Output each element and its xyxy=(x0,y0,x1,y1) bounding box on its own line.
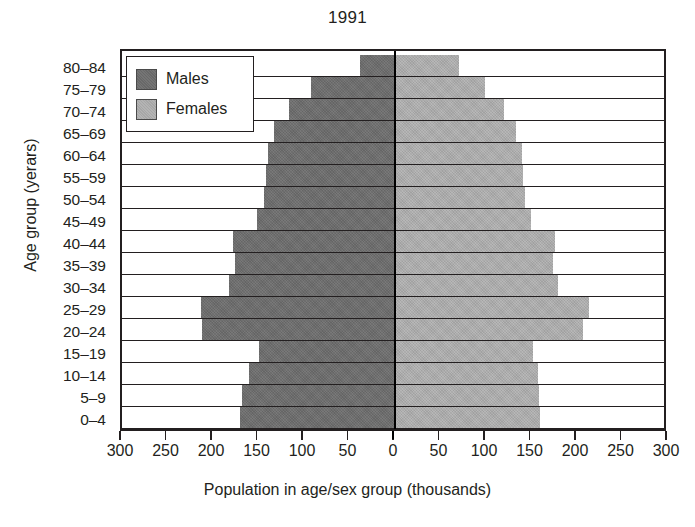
x-axis-tick-labels: 30025020015010050050100150200250300 xyxy=(120,442,666,466)
bar-female xyxy=(395,55,459,76)
y-axis-tick-label: 10–14 xyxy=(46,365,112,387)
chart-legend: Males Females xyxy=(126,56,254,132)
legend-label-males: Males xyxy=(166,70,209,88)
x-axis-tick xyxy=(165,431,167,440)
legend-swatch-females-icon xyxy=(136,99,157,120)
y-axis-title: Age group (yerars) xyxy=(22,100,40,310)
zero-axis-line xyxy=(394,51,397,429)
bar-female xyxy=(395,253,553,274)
bar-male xyxy=(257,209,396,230)
x-axis-tick xyxy=(438,431,440,440)
x-axis-tick xyxy=(210,431,212,440)
x-axis-tick xyxy=(301,431,303,440)
bar-male xyxy=(289,99,396,120)
bar-male xyxy=(266,165,396,186)
bar-female xyxy=(395,341,533,362)
x-axis-tick-label: 0 xyxy=(389,442,398,460)
y-axis-tick-label: 0–4 xyxy=(46,409,112,431)
y-axis-tick-label: 80–84 xyxy=(46,57,112,79)
bar-male xyxy=(268,143,396,164)
bar-female xyxy=(395,209,531,230)
bar-male xyxy=(242,385,396,406)
x-axis-tick xyxy=(347,431,349,440)
x-axis-tick-label: 200 xyxy=(198,442,225,460)
x-axis-tick-label: 50 xyxy=(339,442,357,460)
y-axis-tick-label: 70–74 xyxy=(46,101,112,123)
population-pyramid-chart: 1991 Age group (yerars) 0–45–910–1415–19… xyxy=(0,0,695,527)
bar-female xyxy=(395,143,522,164)
bar-female xyxy=(395,231,555,252)
y-axis-tick-label: 50–54 xyxy=(46,189,112,211)
bar-male xyxy=(264,187,396,208)
y-axis-tick-label: 65–69 xyxy=(46,123,112,145)
x-axis-tick-label: 300 xyxy=(653,442,680,460)
y-axis-tick-label: 75–79 xyxy=(46,79,112,101)
bar-male xyxy=(202,319,396,340)
bar-female xyxy=(395,165,523,186)
y-axis-tick-label: 20–24 xyxy=(46,321,112,343)
x-axis-tick-label: 300 xyxy=(107,442,134,460)
x-axis-tick xyxy=(529,431,531,440)
bar-male xyxy=(311,77,396,98)
bar-male xyxy=(249,363,396,384)
x-axis-title: Population in age/sex group (thousands) xyxy=(0,481,695,499)
bar-female xyxy=(395,363,538,384)
bar-male xyxy=(240,407,396,428)
x-axis-tick xyxy=(119,431,121,440)
y-axis-tick-label: 55–59 xyxy=(46,167,112,189)
x-axis-tick-label: 100 xyxy=(471,442,498,460)
x-axis-tick-label: 250 xyxy=(607,442,634,460)
legend-item-females: Females xyxy=(136,94,253,124)
y-axis-tick-label: 15–19 xyxy=(46,343,112,365)
bar-female xyxy=(395,187,525,208)
bar-male xyxy=(201,297,396,318)
bar-male xyxy=(274,121,396,142)
bar-female xyxy=(395,121,516,142)
bar-female xyxy=(395,77,485,98)
x-axis-tick-label: 50 xyxy=(430,442,448,460)
bar-female xyxy=(395,407,540,428)
bar-female xyxy=(395,319,583,340)
bar-male xyxy=(360,55,396,76)
bar-male xyxy=(235,253,396,274)
bar-female xyxy=(395,297,589,318)
x-axis-tick-label: 150 xyxy=(243,442,270,460)
y-axis-tick-label: 25–29 xyxy=(46,299,112,321)
zero-axis-tick xyxy=(392,431,395,439)
y-axis-tick-labels: 0–45–910–1415–1920–2425–2930–3435–3940–4… xyxy=(46,57,112,431)
x-axis-tick xyxy=(620,431,622,440)
y-axis-tick-label: 5–9 xyxy=(46,387,112,409)
y-axis-tick-label: 40–44 xyxy=(46,233,112,255)
x-axis-tick-label: 100 xyxy=(289,442,316,460)
bar-female xyxy=(395,275,558,296)
x-axis-tick-label: 150 xyxy=(516,442,543,460)
legend-item-males: Males xyxy=(136,64,253,94)
x-axis-tick-label: 250 xyxy=(152,442,179,460)
y-axis-tick-label: 45–49 xyxy=(46,211,112,233)
bar-male xyxy=(233,231,396,252)
y-axis-tick-label: 35–39 xyxy=(46,255,112,277)
bar-female xyxy=(395,385,539,406)
y-axis-tick-label: 60–64 xyxy=(46,145,112,167)
x-axis-tick xyxy=(256,431,258,440)
x-axis-tick-label: 200 xyxy=(562,442,589,460)
bar-male xyxy=(259,341,397,362)
bar-male xyxy=(229,275,396,296)
legend-label-females: Females xyxy=(166,100,227,118)
x-axis-tick xyxy=(574,431,576,440)
x-axis-tick xyxy=(483,431,485,440)
legend-swatch-males-icon xyxy=(136,69,157,90)
chart-title: 1991 xyxy=(0,8,695,28)
y-axis-tick-label: 30–34 xyxy=(46,277,112,299)
bar-female xyxy=(395,99,504,120)
x-axis-tick xyxy=(665,431,667,440)
